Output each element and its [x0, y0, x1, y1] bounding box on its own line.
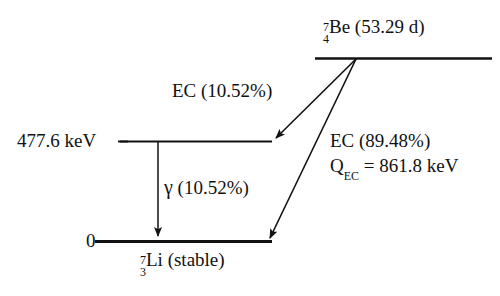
transition-arrow-ec-to-excited — [276, 59, 356, 138]
transition-label-ec-to-ground: EC (89.48%) — [330, 130, 430, 152]
q-value-symbol: Q — [330, 155, 344, 176]
q-value-equals: = — [364, 155, 375, 176]
nuclide-be7-numbers: 74 — [323, 21, 329, 45]
transition-label-gamma: γ (10.52%) — [164, 176, 249, 199]
q-value-label: QEC = 861.8 keV — [330, 155, 458, 181]
level-label-parent: 74Be (53.29 d) — [323, 16, 425, 47]
nuclide-be7-symbol-and-halflife: Be (53.29 d) — [329, 16, 425, 37]
nuclide-be7-atomic-number: 4 — [323, 33, 329, 45]
transition-label-ec-to-excited: EC (10.52%) — [172, 80, 272, 102]
level-energy-label-ground: 0 — [86, 230, 96, 252]
nuclide-be7: 74Be (53.29 d) — [323, 16, 425, 47]
gamma-intensity: (10.52%) — [178, 177, 249, 198]
level-label-ground: 73Li (stable) — [140, 249, 225, 280]
nuclide-li7-atomic-number: 3 — [140, 266, 146, 278]
q-value-number: 861.8 keV — [379, 155, 458, 176]
level-energy-label-excited: 477.6 keV — [17, 130, 96, 152]
nuclide-li7: 73Li (stable) — [140, 249, 225, 280]
gamma-symbol: γ — [164, 176, 173, 198]
nuclide-li7-symbol-and-state: Li (stable) — [146, 249, 225, 270]
decay-scheme-diagram: 74Be (53.29 d) EC (10.52%) 477.6 keV EC … — [0, 0, 500, 296]
nuclide-li7-numbers: 73 — [140, 254, 146, 278]
q-value-subscript: EC — [344, 169, 359, 183]
